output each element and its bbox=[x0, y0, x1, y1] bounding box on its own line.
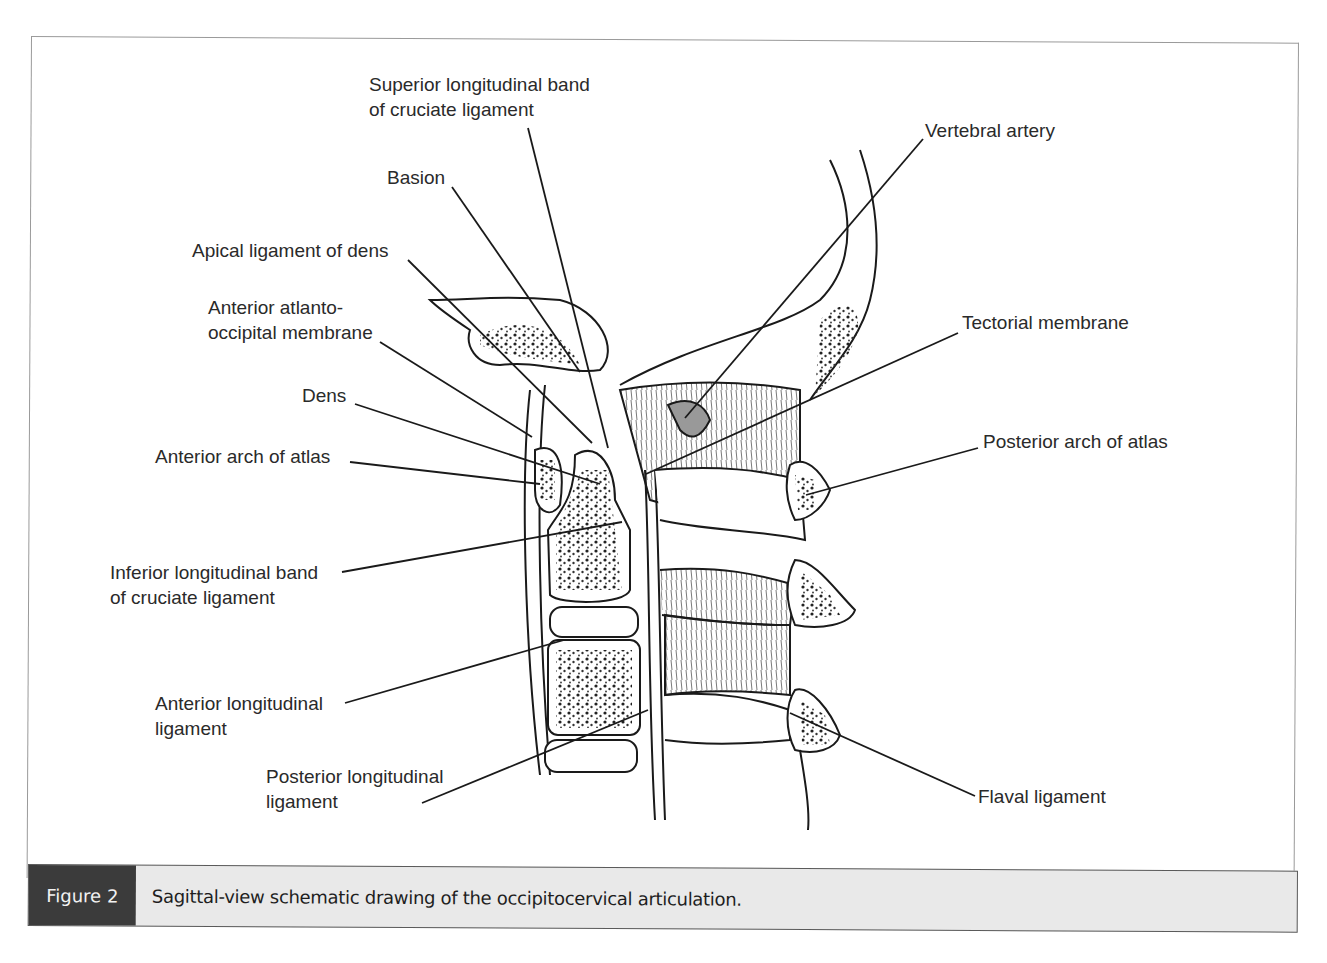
occipitocervical-illustration bbox=[0, 0, 1327, 963]
label-dens: Dens bbox=[302, 383, 346, 408]
disc-c3-c4 bbox=[545, 740, 637, 772]
label-posterior-longitudinal-ligament: Posterior longitudinal ligament bbox=[266, 764, 443, 814]
label-basion: Basion bbox=[387, 165, 445, 190]
label-inferior-longitudinal-band: Inferior longitudinal band of cruciate l… bbox=[110, 560, 318, 610]
label-anterior-arch-of-atlas: Anterior arch of atlas bbox=[155, 444, 330, 469]
skull-base bbox=[620, 160, 848, 385]
label-flaval-ligament: Flaval ligament bbox=[978, 784, 1106, 809]
figure-caption-text: Sagittal-view schematic drawing of the o… bbox=[136, 885, 742, 909]
label-superior-longitudinal-band: Superior longitudinal band of cruciate l… bbox=[369, 72, 590, 122]
label-anterior-atlanto-occipital-membrane: Anterior atlanto- occipital membrane bbox=[208, 295, 373, 345]
label-anterior-longitudinal-ligament: Anterior longitudinal ligament bbox=[155, 691, 323, 741]
label-apical-ligament: Apical ligament of dens bbox=[192, 238, 388, 263]
figure-number: Figure 2 bbox=[29, 865, 136, 926]
label-tectorial-membrane: Tectorial membrane bbox=[962, 310, 1129, 335]
disc-c2-c3 bbox=[550, 607, 638, 637]
label-posterior-arch-of-atlas: Posterior arch of atlas bbox=[983, 429, 1168, 454]
label-vertebral-artery: Vertebral artery bbox=[925, 118, 1055, 143]
figure-caption-bar: Figure 2 Sagittal-view schematic drawing… bbox=[28, 864, 1298, 933]
